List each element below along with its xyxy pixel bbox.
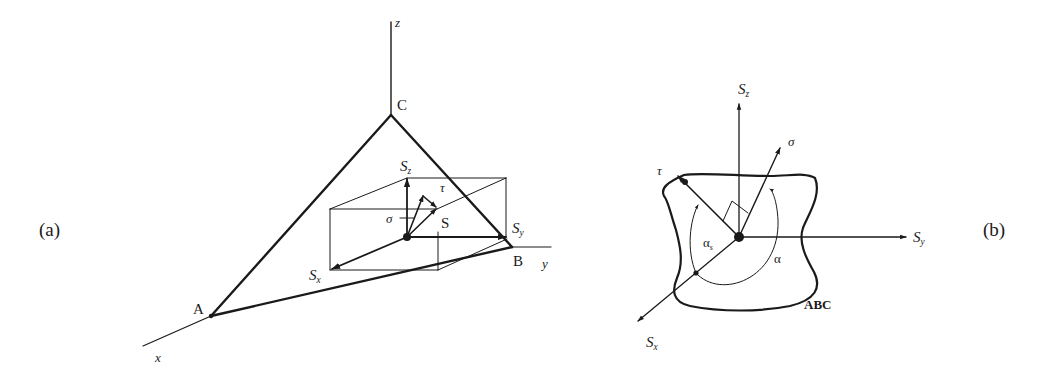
vector-sigma-a <box>407 196 423 237</box>
panel-b-drawing <box>638 104 906 321</box>
vector-label-sigma-a: σ <box>386 212 392 225</box>
vector-label-Sy-b: Sy <box>913 230 925 248</box>
stress-vector-figure: (a) z x y C A B Sz Sy Sx S σ τ (b) Sz Sy… <box>0 0 1062 385</box>
vector-label-Sz-b: Sz <box>738 82 749 100</box>
vector-label-Sx-b: Sx <box>646 335 658 353</box>
right-angle-mark-tau <box>723 201 748 221</box>
panel-label-b: (b) <box>983 220 1005 239</box>
vector-label-S-a: S <box>441 216 449 231</box>
point-A-dot <box>209 314 213 318</box>
sx-plane-dot <box>693 270 698 275</box>
angle-label-alpha-s: αs <box>703 236 713 252</box>
point-label-A: A <box>193 302 204 317</box>
edge-CB <box>391 115 512 247</box>
vector-label-Sz-a: Sz <box>400 159 411 177</box>
plane-ABC-outline <box>663 174 817 311</box>
construction-box <box>330 178 507 270</box>
point-label-B: B <box>513 254 523 269</box>
vector-label-sigma-b: σ <box>788 135 794 148</box>
vector-label-Sy-a: Sy <box>512 221 524 239</box>
tau-base-dot <box>682 179 688 185</box>
angle-label-alpha: α <box>774 252 781 265</box>
axis-label-x: x <box>155 351 161 364</box>
edge-CA <box>211 115 391 316</box>
vector-label-Sx-a: Sx <box>309 268 321 286</box>
panel-label-a: (a) <box>39 220 60 239</box>
figure-drawing <box>0 0 1062 385</box>
vector-tau-a <box>423 196 436 207</box>
axis-label-z: z <box>395 16 400 29</box>
axis-label-y: y <box>542 257 548 270</box>
vector-sigma-b <box>739 148 780 237</box>
vector-label-tau-b: τ <box>657 164 662 177</box>
vector-S-a <box>407 209 436 237</box>
point-label-C: C <box>397 98 407 113</box>
vector-Sx-a <box>332 237 407 269</box>
vector-Sx-b <box>638 237 739 321</box>
panel-a-drawing <box>143 22 551 346</box>
vector-label-tau-a: τ <box>440 181 445 194</box>
angle-arc-alpha-s <box>690 205 698 273</box>
x-axis <box>143 316 211 346</box>
origin-dot-a <box>403 233 411 241</box>
plane-label-ABC: ABC <box>804 298 831 311</box>
origin-dot-b <box>734 232 744 242</box>
